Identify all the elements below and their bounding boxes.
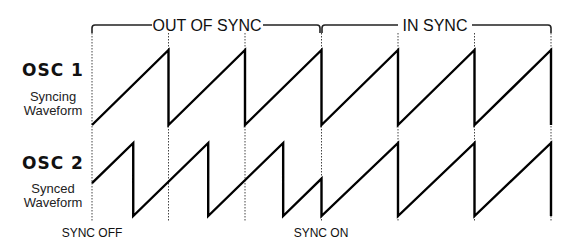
sync-off-marker: SYNC OFF [62, 226, 123, 240]
out-of-sync-label: OUT OF SYNC [152, 17, 261, 34]
in-sync-label: IN SYNC [403, 17, 468, 34]
osc2-subtitle-line1: Synced [31, 181, 74, 196]
oscillator-sync-diagram: OUT OF SYNC IN SYNC OSC 1 Syncing Wavefo… [0, 0, 572, 250]
sync-on-marker: SYNC ON [294, 226, 349, 240]
osc1-subtitle-line2: Waveform [24, 103, 83, 118]
osc1-subtitle-line1: Syncing [30, 89, 76, 104]
osc2-title: OSC 2 [22, 153, 84, 173]
osc1-waveform [92, 50, 551, 125]
osc2-subtitle-line2: Waveform [24, 195, 83, 210]
osc1-title: OSC 1 [22, 60, 84, 80]
